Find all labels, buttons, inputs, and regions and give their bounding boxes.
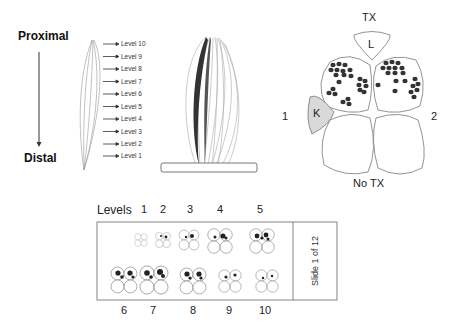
level-label: Level 3 (121, 128, 142, 136)
levels-title: Levels (97, 203, 132, 217)
slide-label: Slide 1 of 12 (310, 236, 320, 286)
level-number: 5 (257, 203, 263, 215)
no-tx-label: No TX (353, 177, 384, 189)
level-number: 2 (160, 203, 166, 215)
fascicle-2-label: 2 (431, 110, 437, 122)
level-number: 6 (121, 304, 127, 316)
muscle-spindle-outline (80, 40, 100, 170)
k-label: K (313, 107, 320, 119)
level-label: Level 8 (121, 65, 142, 73)
level-number: 1 (141, 203, 147, 215)
fascicle-bottom-left (322, 114, 374, 173)
level-number: 4 (217, 203, 223, 215)
muscle-fibers-diagram (161, 37, 257, 172)
slide-indicator: Slide 1 of 12 (293, 222, 337, 300)
level-label: Level 4 (121, 115, 142, 123)
fascicle-cross-section (308, 32, 424, 175)
level-number: 9 (226, 304, 232, 316)
level-arrows (103, 43, 119, 158)
tx-label: TX (362, 11, 376, 23)
level-number: 10 (259, 304, 271, 316)
mini-sections (111, 229, 278, 294)
proximal-distal-arrow (37, 52, 42, 147)
level-label: Level 1 (121, 152, 142, 160)
level-label: Level 9 (121, 53, 142, 61)
diagram-graphics (0, 0, 452, 332)
fascicle-bottom-right (373, 114, 424, 174)
level-label: Level 2 (121, 140, 142, 148)
level-number: 8 (190, 304, 196, 316)
level-number: 7 (150, 304, 156, 316)
level-label: Level 10 (121, 40, 146, 48)
level-label: Level 7 (121, 78, 142, 86)
level-label: Level 6 (121, 90, 142, 98)
level-number: 3 (187, 203, 193, 215)
fascicle-1-label: 1 (282, 110, 288, 122)
level-label: Level 5 (121, 103, 142, 111)
l-label: L (368, 38, 374, 50)
